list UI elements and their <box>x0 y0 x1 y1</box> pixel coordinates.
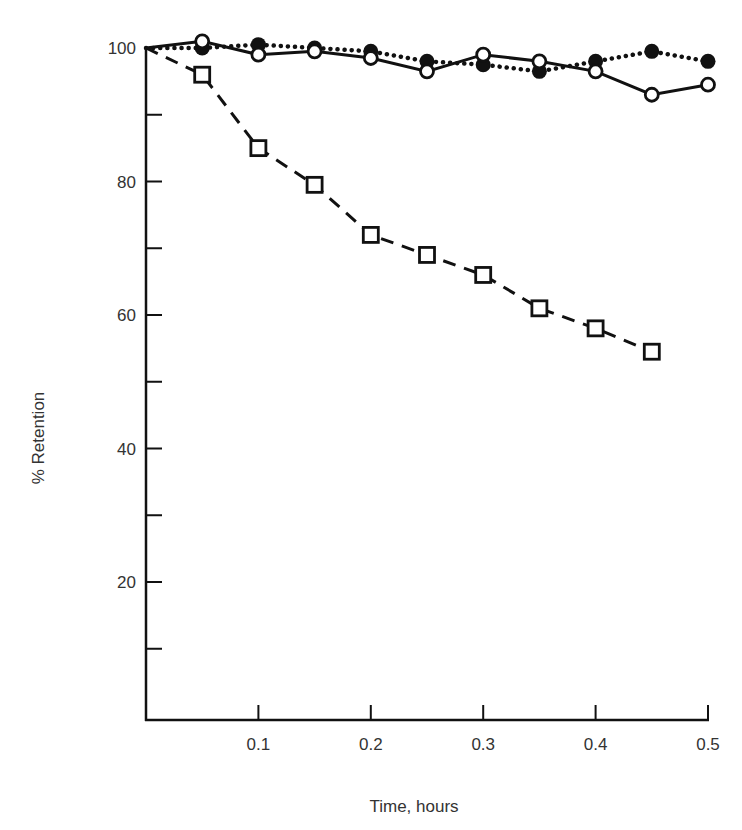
series-line <box>146 48 652 352</box>
data-point-open-circle <box>196 35 209 48</box>
data-point-open-square <box>644 344 659 359</box>
y-tick-label: 60 <box>117 306 136 325</box>
x-axis-title: Time, hours <box>369 797 458 816</box>
data-point-open-circle <box>589 65 602 78</box>
data-point-open-circle <box>308 45 321 58</box>
data-point-open-circle <box>421 65 434 78</box>
data-point-open-circle <box>252 48 265 61</box>
x-tick-label: 0.4 <box>584 735 608 754</box>
data-point-filled-circle <box>644 44 659 59</box>
data-point-open-circle <box>702 78 715 91</box>
data-point-open-circle <box>645 88 658 101</box>
x-tick-label: 0.1 <box>247 735 271 754</box>
x-tick-label: 0.2 <box>359 735 383 754</box>
data-point-open-circle <box>477 48 490 61</box>
y-tick-label: 20 <box>117 573 136 592</box>
axes <box>145 47 709 721</box>
data-point-open-circle <box>533 55 546 68</box>
y-ticks: 20406080100 <box>108 39 162 649</box>
series-open-square <box>146 48 659 359</box>
data-point-open-square <box>588 321 603 336</box>
y-tick-label: 80 <box>117 173 136 192</box>
y-tick-label: 100 <box>108 39 136 58</box>
data-point-open-square <box>420 247 435 262</box>
data-point-open-square <box>195 67 210 82</box>
data-point-open-circle <box>364 52 377 65</box>
data-point-open-square <box>363 227 378 242</box>
x-ticks: 0.10.20.30.40.5 <box>247 705 720 754</box>
data-point-open-square <box>307 177 322 192</box>
x-tick-label: 0.5 <box>696 735 720 754</box>
y-tick-label: 40 <box>117 440 136 459</box>
retention-chart: 20406080100 0.10.20.30.40.5 % Retention … <box>0 0 742 830</box>
y-axis-title: % Retention <box>29 392 48 485</box>
x-tick-label: 0.3 <box>471 735 495 754</box>
data-point-open-square <box>532 301 547 316</box>
series-layer <box>146 35 716 359</box>
data-point-open-square <box>476 267 491 282</box>
data-point-filled-circle <box>701 54 716 69</box>
data-point-open-square <box>251 141 266 156</box>
